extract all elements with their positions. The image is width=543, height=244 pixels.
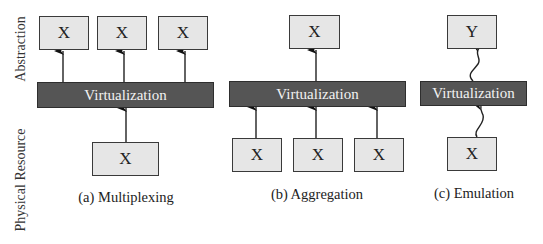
panel-b-virtualization-bar: Virtualization <box>229 81 406 107</box>
panel-a-top-box-3: X <box>158 16 208 50</box>
panel-c-virtualization-bar: Virtualization <box>420 81 527 106</box>
panel-a-virtualization-bar: Virtualization <box>37 82 214 108</box>
panel-c-bottom-box: X <box>447 137 497 171</box>
panel-c-caption: (c) Emulation <box>434 185 514 202</box>
panel-b-caption: (b) Aggregation <box>271 186 363 203</box>
panel-b-bottom-box-2: X <box>293 138 343 172</box>
panel-b-bottom-box-3: X <box>354 138 404 172</box>
panel-a-caption: (a) Multiplexing <box>78 189 173 206</box>
panel-c-top-box: Y <box>447 15 497 49</box>
panel-a-top-box-2: X <box>97 16 147 50</box>
panel-b-bottom-box-1: X <box>232 138 282 172</box>
panel-b-top-box: X <box>289 15 340 49</box>
panel-a-bottom-box: X <box>92 142 159 176</box>
panel-a-top-box-1: X <box>39 16 89 50</box>
